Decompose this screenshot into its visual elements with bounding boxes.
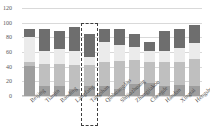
bar-segment[interactable] bbox=[129, 47, 140, 60]
bar-segment[interactable] bbox=[189, 25, 200, 43]
y-tick-label: 120 bbox=[0, 5, 12, 11]
bar-segment[interactable] bbox=[84, 34, 95, 57]
bar-segment[interactable] bbox=[39, 29, 50, 51]
y-tick-label: 20 bbox=[0, 78, 12, 84]
bar-segment[interactable] bbox=[114, 45, 125, 60]
bar-column[interactable] bbox=[174, 8, 185, 96]
bar-segment[interactable] bbox=[174, 48, 185, 63]
y-tick-label: 80 bbox=[0, 34, 12, 40]
bar-segment[interactable] bbox=[24, 29, 35, 37]
x-axis-labels: BeijingTianjinBaodingLangfangTangshanQin… bbox=[22, 97, 202, 135]
bar-segment[interactable] bbox=[99, 62, 110, 86]
bar-segment[interactable] bbox=[189, 59, 200, 86]
y-tick-label: 40 bbox=[0, 64, 12, 70]
bar-column[interactable] bbox=[99, 8, 110, 96]
bar-segment[interactable] bbox=[84, 57, 95, 65]
bar-segment[interactable] bbox=[24, 66, 35, 96]
stacked-bar-chart: 020406080100120 BeijingTianjinBaodingLan… bbox=[0, 0, 210, 135]
bar-segment[interactable] bbox=[54, 31, 65, 49]
bar-segment[interactable] bbox=[189, 43, 200, 58]
bar-column[interactable] bbox=[189, 8, 200, 96]
bar-segment[interactable] bbox=[54, 49, 65, 64]
bar-segment[interactable] bbox=[99, 42, 110, 61]
plot-area: 020406080100120 bbox=[22, 8, 202, 96]
y-tick-label: 60 bbox=[0, 49, 12, 55]
bar-column[interactable] bbox=[24, 8, 35, 96]
bar-segment[interactable] bbox=[174, 62, 185, 85]
bar-segment[interactable] bbox=[39, 64, 50, 87]
bar-segment[interactable] bbox=[114, 29, 125, 46]
bar-segment[interactable] bbox=[69, 27, 80, 50]
bar-segment[interactable] bbox=[174, 29, 185, 48]
bar-segment[interactable] bbox=[159, 62, 170, 86]
y-tick-label: 0 bbox=[0, 93, 12, 99]
bar-series-group bbox=[22, 8, 202, 96]
bar-segment[interactable] bbox=[39, 51, 50, 64]
y-tick-label: 100 bbox=[0, 20, 12, 26]
bar-segment[interactable] bbox=[144, 51, 155, 63]
bar-segment[interactable] bbox=[24, 37, 35, 61]
bar-segment[interactable] bbox=[159, 51, 170, 62]
bar-segment[interactable] bbox=[54, 64, 65, 86]
bar-segment[interactable] bbox=[159, 31, 170, 51]
bar-segment[interactable] bbox=[99, 29, 110, 43]
bar-segment[interactable] bbox=[129, 34, 140, 46]
bar-segment[interactable] bbox=[69, 51, 80, 66]
bar-column[interactable] bbox=[69, 8, 80, 96]
bar-column[interactable] bbox=[84, 8, 95, 96]
bar-column[interactable] bbox=[39, 8, 50, 96]
bar-segment[interactable] bbox=[144, 42, 155, 51]
bar-column[interactable] bbox=[54, 8, 65, 96]
